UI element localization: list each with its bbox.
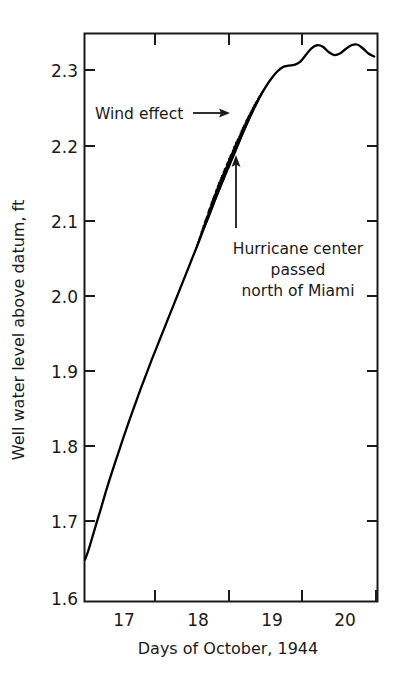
x-tick-label-18: 18: [187, 610, 209, 630]
chart-background: [0, 0, 399, 681]
y-tick-label-1.7: 1.7: [51, 512, 78, 532]
x-tick-label-19: 19: [261, 610, 283, 630]
y-tick-label-2.0: 2.0: [51, 287, 78, 307]
y-tick-label-2.3: 2.3: [51, 61, 78, 81]
hurricane-label-line3: north of Miami: [242, 282, 355, 300]
chart-svg: 2.3 2.2 2.1 2.0 1.9 1.8 1.7 1.6 17 18 19…: [0, 0, 399, 681]
y-tick-label-1.9: 1.9: [51, 362, 78, 382]
y-tick-label-1.8: 1.8: [51, 437, 78, 457]
x-tick-label-17: 17: [113, 610, 135, 630]
hurricane-label-line1: Hurricane center: [233, 240, 364, 258]
y-axis-title: Well water level above datum, ft: [9, 200, 28, 460]
hurricane-label-line2: passed: [271, 261, 326, 279]
x-tick-label-20: 20: [334, 610, 356, 630]
chart-figure: 2.3 2.2 2.1 2.0 1.9 1.8 1.7 1.6 17 18 19…: [0, 0, 399, 681]
wind-effect-label: Wind effect: [95, 105, 183, 123]
y-tick-label-2.2: 2.2: [51, 137, 78, 157]
x-axis-title: Days of October, 1944: [138, 639, 318, 658]
y-tick-label-1.6: 1.6: [51, 589, 78, 609]
y-tick-label-2.1: 2.1: [51, 212, 78, 232]
